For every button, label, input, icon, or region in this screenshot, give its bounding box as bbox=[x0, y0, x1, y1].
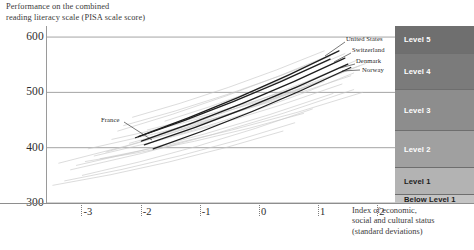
country-label-switzerland: Switzerland bbox=[352, 46, 385, 53]
proficiency-level-bands: Level 5Level 4Level 3Level 2Level 1Below… bbox=[395, 26, 474, 203]
x-tick-mark-1 bbox=[318, 205, 319, 216]
country-label-denmark: Denmark bbox=[356, 57, 381, 64]
level-band-2: Level 4 bbox=[395, 53, 474, 89]
country-label-united-states: United States bbox=[346, 35, 383, 42]
level-band-5: Level 1 bbox=[395, 167, 474, 194]
x-tick-0: 0 bbox=[261, 206, 281, 217]
x-tick--1: -1 bbox=[202, 206, 222, 217]
x-axis-caption-line2: social and cultural status bbox=[352, 216, 472, 226]
x-axis-caption-line3: (standard deviations) bbox=[352, 227, 472, 237]
level-band-6: Below Level 1 bbox=[395, 194, 474, 203]
level-band-label: Level 5 bbox=[395, 35, 430, 44]
x-axis-caption-line1: Index of economic, bbox=[352, 206, 472, 216]
level-band-4: Level 2 bbox=[395, 130, 474, 167]
level-band-1: Level 5 bbox=[395, 26, 474, 53]
country-label-france: France bbox=[101, 116, 120, 123]
level-band-label: Level 1 bbox=[395, 177, 430, 186]
x-tick--2: -2 bbox=[143, 206, 163, 217]
x-axis-caption: Index of economic, social and cultural s… bbox=[352, 206, 472, 237]
level-band-label: Level 2 bbox=[395, 145, 430, 154]
country-label-norway: Norway bbox=[362, 66, 384, 73]
x-tick-1: 1 bbox=[320, 206, 340, 217]
x-tick-mark-0 bbox=[259, 205, 260, 216]
level-band-label: Level 3 bbox=[395, 106, 430, 115]
x-tick--3: -3 bbox=[83, 206, 103, 217]
level-band-label: Level 4 bbox=[395, 67, 430, 76]
level-band-3: Level 3 bbox=[395, 89, 474, 130]
level-band-label: Below Level 1 bbox=[395, 195, 456, 204]
x-tick-mark--3 bbox=[81, 205, 82, 216]
x-tick-mark--1 bbox=[200, 205, 201, 216]
x-tick-mark--2 bbox=[141, 205, 142, 216]
